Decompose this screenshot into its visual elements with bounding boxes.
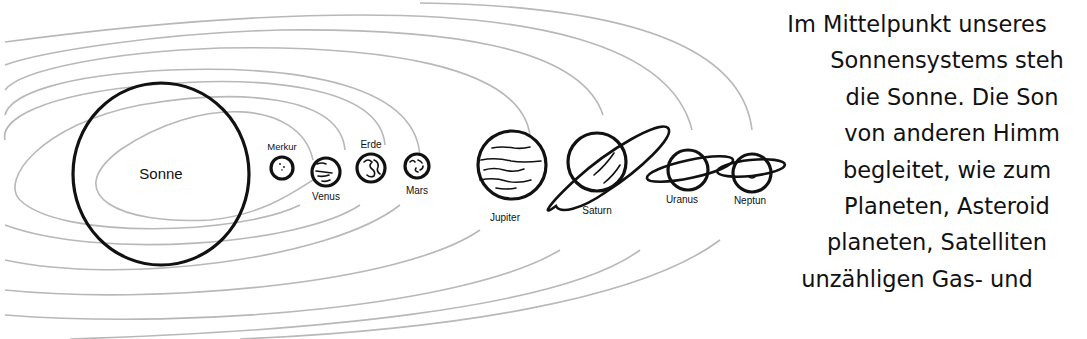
planet-saturn: Saturn xyxy=(548,127,669,216)
jupiter-label: Jupiter xyxy=(490,212,521,223)
text-line: unzähligen Gas- und xyxy=(672,261,1087,297)
earth-label: Erde xyxy=(360,139,382,150)
text-line: Planeten, Asteroid xyxy=(732,188,1087,224)
description-text: Im Mittelpunkt unseres Sonnensystems ste… xyxy=(762,6,1087,297)
text-line: Im Mittelpunkt unseres xyxy=(672,6,1087,42)
text-line: planeten, Satelliten xyxy=(712,224,1087,260)
saturn-label: Saturn xyxy=(582,205,611,216)
planet-mars: Mars xyxy=(405,154,429,196)
text-line: die Sonne. Die Son xyxy=(742,79,1087,115)
planet-venus: Venus xyxy=(312,158,340,202)
venus-label: Venus xyxy=(312,191,340,202)
mercury-label: Merkur xyxy=(267,141,297,152)
mars-label: Mars xyxy=(406,185,428,196)
sun-label: Sonne xyxy=(139,165,182,182)
planet-mercury: Merkur xyxy=(267,141,297,179)
text-line: begleitet, wie zum xyxy=(732,152,1087,188)
uranus-label: Uranus xyxy=(666,194,698,205)
planet-earth: Erde xyxy=(357,139,385,182)
planet-uranus: Uranus xyxy=(645,150,735,205)
text-line: Sonnensystems steh xyxy=(732,42,1087,78)
sun: Sonne xyxy=(73,83,249,265)
planet-jupiter: Jupiter xyxy=(478,131,546,223)
text-line: von anderen Himm xyxy=(742,115,1087,151)
